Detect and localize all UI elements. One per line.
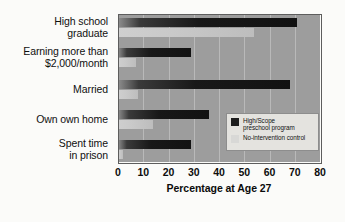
legend-label-line: No-intervention control	[243, 134, 305, 141]
x-tick-label: 50	[238, 166, 250, 178]
legend-swatch-light	[231, 135, 239, 143]
category-label: Spent timein prison	[0, 138, 108, 161]
category-label-line: in prison	[0, 150, 108, 162]
category-label: Married	[0, 84, 108, 96]
legend-label-line: preschool program	[243, 124, 295, 131]
category-label-line: Own own home	[0, 114, 108, 126]
x-tick-label: 30	[188, 166, 200, 178]
bar	[118, 18, 297, 27]
category-label-line: Earning more than	[0, 46, 108, 58]
legend-label: No-intervention control	[243, 134, 305, 141]
x-tick-label: 60	[264, 166, 276, 178]
category-label-line: Spent time	[0, 138, 108, 150]
legend-item[interactable]: No-intervention control	[231, 134, 315, 143]
x-tick-label: 10	[137, 166, 149, 178]
category-label: High schoolgraduate	[0, 16, 108, 39]
x-tick-label: 0	[115, 166, 121, 178]
bar	[118, 48, 191, 57]
x-tick-label: 70	[289, 166, 301, 178]
legend-item[interactable]: High/Scopepreschool program	[231, 117, 315, 131]
x-tick-label: 40	[213, 166, 225, 178]
bar	[118, 80, 290, 89]
category-label-line: $2,000/month	[0, 58, 108, 70]
bar	[118, 28, 254, 37]
bar	[118, 90, 138, 99]
legend-swatch-dark	[231, 118, 239, 126]
bar-chart-figure: High schoolgraduateEarning more than$2,0…	[0, 0, 345, 222]
x-axis-title: Percentage at Age 27	[118, 182, 320, 194]
category-label: Own own home	[0, 114, 108, 126]
legend-label-line: High/Scope	[243, 117, 295, 124]
bar	[118, 110, 209, 119]
chart-legend: High/Scopepreschool programNo-interventi…	[226, 113, 319, 151]
category-axis-labels: High schoolgraduateEarning more than$2,0…	[0, 14, 112, 162]
bar	[118, 140, 191, 149]
bar	[118, 58, 136, 67]
category-label: Earning more than$2,000/month	[0, 46, 108, 69]
value-axis-ticks: 01020304050607080	[118, 166, 320, 180]
bar	[118, 150, 123, 159]
x-tick-label: 80	[314, 166, 326, 178]
category-label-line: High school	[0, 16, 108, 28]
category-label-line: graduate	[0, 28, 108, 40]
x-tick-label: 20	[163, 166, 175, 178]
legend-label: High/Scopepreschool program	[243, 117, 295, 131]
bar	[118, 120, 153, 129]
category-label-line: Married	[0, 84, 108, 96]
